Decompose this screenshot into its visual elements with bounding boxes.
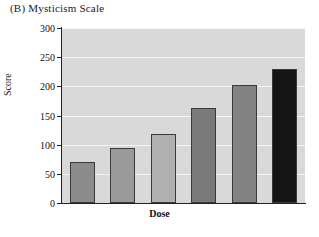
bar-series bbox=[62, 28, 305, 203]
y-tick-mark bbox=[57, 57, 61, 58]
y-tick-mark bbox=[57, 116, 61, 117]
y-axis-tick-labels: 050100150200250300 bbox=[0, 0, 55, 237]
y-tick-mark bbox=[57, 28, 61, 29]
y-tick-label: 50 bbox=[45, 168, 55, 179]
y-tick-label: 150 bbox=[40, 110, 55, 121]
bar bbox=[70, 162, 95, 203]
bar bbox=[151, 134, 176, 203]
y-tick-mark bbox=[57, 174, 61, 175]
y-tick-label: 100 bbox=[40, 139, 55, 150]
y-tick-label: 0 bbox=[50, 198, 55, 209]
bar bbox=[272, 69, 297, 203]
y-axis-title: Score bbox=[2, 73, 13, 96]
x-axis-title: Dose bbox=[0, 208, 319, 219]
bar bbox=[110, 148, 135, 203]
y-tick-label: 200 bbox=[40, 81, 55, 92]
y-tick-label: 250 bbox=[40, 52, 55, 63]
y-tick-label: 300 bbox=[40, 23, 55, 34]
y-tick-mark bbox=[57, 203, 61, 204]
bar bbox=[191, 108, 216, 203]
y-tick-mark bbox=[57, 145, 61, 146]
figure-panel-b: (B) Mysticism Scale 050100150200250300 S… bbox=[0, 0, 319, 237]
y-tick-mark bbox=[57, 86, 61, 87]
x-axis-line bbox=[61, 203, 306, 204]
bar bbox=[232, 85, 257, 203]
